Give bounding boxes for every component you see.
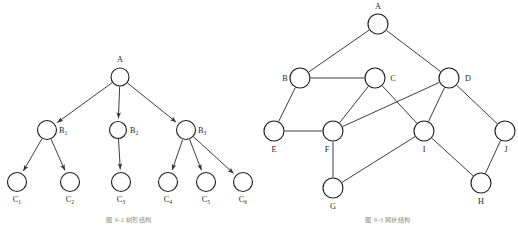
node-label-d: D xyxy=(465,74,471,83)
node-c1 xyxy=(8,173,27,192)
edge-b3-c4 xyxy=(172,140,183,170)
node-c6 xyxy=(234,173,253,192)
graph-figure-caption: 图 9-3 网状结构 xyxy=(365,216,410,224)
node-b1 xyxy=(38,121,57,140)
edge-a-d xyxy=(386,30,440,71)
node-b3 xyxy=(177,121,196,140)
node-b xyxy=(290,68,310,88)
node-b2 xyxy=(110,122,127,139)
node-label-subscript: 6 xyxy=(244,199,247,205)
node-label-g: G xyxy=(330,202,336,211)
node-label-b: B xyxy=(282,74,288,83)
node-c4 xyxy=(159,173,178,192)
edge-b-e xyxy=(279,88,296,122)
node-label-b2: B2 xyxy=(130,126,138,136)
node-label-subscript: 3 xyxy=(122,199,125,205)
node-h xyxy=(471,173,491,193)
node-c xyxy=(365,68,385,88)
edge-b2-c3 xyxy=(119,139,121,169)
graph-diagram-canvas: ABCDEFGIHJ 图 9-3 网状结构 xyxy=(259,0,518,226)
tree-structure-figure: AB1B2B3C1C2C3C4C5C6 图 9-2 树形结构 xyxy=(0,0,259,226)
edge-c-i xyxy=(382,86,417,123)
graph-edge-group xyxy=(279,30,501,182)
edge-a-b xyxy=(309,30,370,72)
node-c3 xyxy=(112,173,131,192)
edge-b3-c5 xyxy=(190,139,202,170)
node-label-b1: B1 xyxy=(59,126,67,136)
edge-b3-c6 xyxy=(193,137,233,174)
node-j xyxy=(495,121,515,141)
node-label-c2: C2 xyxy=(66,195,74,205)
node-label-subscript: 2 xyxy=(71,199,74,205)
node-label-subscript: 1 xyxy=(64,130,67,136)
edge-a-b1 xyxy=(57,83,112,123)
node-label-e: E xyxy=(271,145,276,154)
node-label-c: C xyxy=(390,74,396,83)
node-label-j: J xyxy=(504,145,508,154)
node-c5 xyxy=(197,173,216,192)
node-label-f: F xyxy=(325,145,330,154)
edge-b1-c1 xyxy=(23,139,42,171)
edge-a-b3 xyxy=(127,83,176,122)
node-c2 xyxy=(61,173,80,192)
edge-d-f xyxy=(343,82,440,126)
edge-d-j xyxy=(457,85,498,123)
tree-diagram-canvas: AB1B2B3C1C2C3C4C5C6 图 9-2 树形结构 xyxy=(0,0,259,226)
node-d xyxy=(439,68,459,88)
edge-d-i xyxy=(429,88,445,122)
edge-i-h xyxy=(432,138,473,176)
network-structure-figure: ABCDEFGIHJ 图 9-3 网状结构 xyxy=(259,0,518,226)
figure-root: AB1B2B3C1C2C3C4C5C6 图 9-2 树形结构 ABCDEFGIH… xyxy=(0,0,518,226)
node-label-subscript: 5 xyxy=(207,199,210,205)
node-label-subscript: 1 xyxy=(18,199,21,205)
node-g xyxy=(323,178,343,198)
node-label-subscript: 3 xyxy=(203,130,206,136)
tree-figure-caption: 图 9-2 树形结构 xyxy=(106,216,151,224)
node-label-i: I xyxy=(423,145,426,154)
node-f xyxy=(323,121,343,141)
edge-b1-c2 xyxy=(51,139,65,170)
node-label-subscript: 2 xyxy=(135,130,138,136)
node-a xyxy=(368,14,388,34)
node-label-c6: C6 xyxy=(239,195,247,205)
node-label-a: A xyxy=(375,2,381,11)
edge-a-b2 xyxy=(118,87,119,119)
graph-node-group: ABCDEFGIHJ xyxy=(264,2,515,211)
node-e xyxy=(264,121,284,141)
edge-g-i xyxy=(342,137,415,183)
node-label-c3: C3 xyxy=(117,195,125,205)
node-label-c1: C1 xyxy=(13,195,21,205)
node-label-c5: C5 xyxy=(202,195,210,205)
node-label-h: H xyxy=(478,197,484,206)
node-label-subscript: 4 xyxy=(169,199,172,205)
node-i xyxy=(414,121,434,141)
edge-h-j xyxy=(485,141,500,174)
node-label-c4: C4 xyxy=(164,195,172,205)
node-label-b3: B3 xyxy=(198,126,206,136)
tree-node-group: AB1B2B3C1C2C3C4C5C6 xyxy=(8,55,253,205)
node-label-a: A xyxy=(117,55,123,64)
node-a xyxy=(111,68,129,86)
